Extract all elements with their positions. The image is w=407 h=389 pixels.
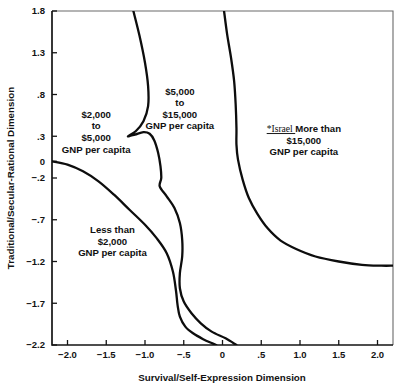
x-tick-label: 0 xyxy=(220,349,225,360)
region-5000-to-15000-line-3: GNP per capita xyxy=(146,120,215,131)
y-tick-label: −1.2 xyxy=(26,256,45,267)
israel-marker: *Israel xyxy=(267,123,296,134)
x-tick-label: −.5 xyxy=(177,349,191,360)
region-more-than-15000-line-2: GNP per capita xyxy=(270,146,339,157)
region-2000-to-5000-line-2: $5,000 xyxy=(82,132,111,143)
region-less-than-2000-line-2: GNP per capita xyxy=(78,247,147,258)
x-tick-label: −1.5 xyxy=(97,349,116,360)
region-2000-to-5000-line-1: to xyxy=(92,120,101,131)
chart-svg: −2.0−1.5−1.0−.50.51.01.52.0 1.81.3.8.30−… xyxy=(0,0,407,389)
chart-background xyxy=(0,0,407,389)
region-2000-to-5000-line-0: $2,000 xyxy=(82,109,111,120)
region-less-than-2000-line-0: Less than xyxy=(90,224,135,235)
y-tick-label: −.2 xyxy=(32,172,45,183)
region-5000-to-15000-line-0: $5,000 xyxy=(165,86,194,97)
x-tick-label: 2.0 xyxy=(371,349,384,360)
x-tick-label: 1.0 xyxy=(293,349,306,360)
region-more-than-15000-first-line: *Israel More than xyxy=(267,123,341,134)
x-tick-label: −1.0 xyxy=(136,349,155,360)
x-tick-label: .5 xyxy=(257,349,266,360)
x-tick-label: −2.0 xyxy=(58,349,77,360)
region-2000-to-5000-line-3: GNP per capita xyxy=(62,144,131,155)
region-5000-to-15000-line-1: to xyxy=(175,97,184,108)
y-tick-label: −.7 xyxy=(32,214,45,225)
y-tick-label: .8 xyxy=(37,89,45,100)
region-more-than-15000-line-1: $15,000 xyxy=(287,135,322,146)
region-less-than-2000-line-1: $2,000 xyxy=(98,236,127,247)
y-tick-label: 1.3 xyxy=(32,47,45,58)
x-tick-label: 1.5 xyxy=(332,349,346,360)
y-tick-label: .3 xyxy=(37,131,45,142)
x-axis-tick-labels: −2.0−1.5−1.0−.50.51.01.52.0 xyxy=(58,349,384,360)
y-tick-label: −1.7 xyxy=(26,298,45,309)
region-more-than-15000-line-0: More than xyxy=(295,123,341,134)
y-axis-title: Traditional/Secular-Rational Dimension xyxy=(5,87,16,269)
y-tick-label: 0 xyxy=(40,156,45,167)
y-tick-label: 1.8 xyxy=(32,5,45,16)
chart-figure: −2.0−1.5−1.0−.50.51.01.52.0 1.81.3.8.30−… xyxy=(0,0,407,389)
region-5000-to-15000-line-2: $15,000 xyxy=(163,109,198,120)
y-tick-label: −2.2 xyxy=(26,339,45,350)
x-axis-title: Survival/Self-Expression Dimension xyxy=(138,372,306,383)
